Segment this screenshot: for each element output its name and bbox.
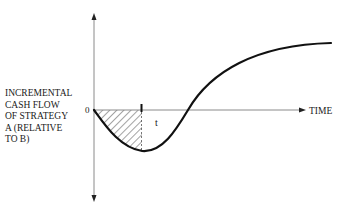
y-axis-label: INCREMENTAL CASH FLOW OF STRATEGY A (REL… — [5, 88, 95, 146]
hatched-loss-area — [94, 110, 142, 151]
t-label: t — [155, 117, 158, 128]
cash-flow-diagram: 0 t TIME INCREMENTAL CASH FLOW OF STRATE… — [0, 0, 347, 215]
y-axis-up-arrow-icon — [92, 13, 97, 20]
x-axis-label: TIME — [309, 106, 332, 116]
y-axis-down-arrow-icon — [92, 195, 97, 202]
x-axis-right-arrow-icon — [299, 108, 306, 113]
